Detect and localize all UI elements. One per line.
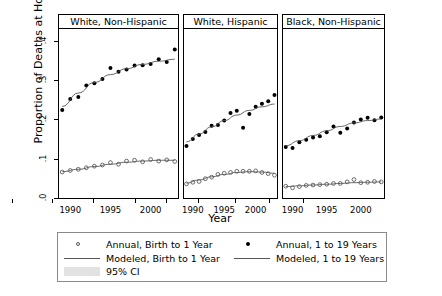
y-tick-mark xyxy=(54,198,58,199)
x-tick-mark xyxy=(166,199,167,203)
plot-area xyxy=(282,29,385,199)
data-point-filled xyxy=(318,134,322,138)
data-point-filled xyxy=(266,99,270,103)
x-tick-label: 2000 xyxy=(347,205,375,215)
data-point-filled xyxy=(366,116,370,120)
panel-strip-label: Black, Non-Hispanic xyxy=(282,14,385,29)
panel-0: White, Non-Hispanic xyxy=(58,14,179,199)
legend-filled-circle-icon xyxy=(246,242,250,246)
y-tick-label: .4 xyxy=(39,33,48,47)
data-point-filled xyxy=(359,117,363,121)
x-tick-label: 1990 xyxy=(279,205,307,215)
x-tick-mark xyxy=(269,199,270,203)
data-point-filled xyxy=(157,57,161,61)
x-tick-label: 2000 xyxy=(242,205,270,215)
data-point-open xyxy=(185,182,189,186)
data-point-filled xyxy=(229,111,233,115)
x-tick-mark xyxy=(198,199,199,203)
x-tick-mark xyxy=(93,199,94,203)
legend-open-circle-icon xyxy=(76,242,80,246)
x-tick-label: 1990 xyxy=(56,205,84,215)
data-point-filled xyxy=(291,146,295,150)
plot-area xyxy=(58,29,179,199)
x-tick-mark xyxy=(135,199,136,203)
x-tick-label: 1990 xyxy=(179,205,207,215)
panel-1: White, Hispanic xyxy=(183,14,278,199)
data-point-filled xyxy=(272,93,276,97)
x-tick-label: 1995 xyxy=(210,205,238,215)
data-point-filled xyxy=(338,131,342,135)
model-line xyxy=(62,59,175,106)
data-point-filled xyxy=(141,63,145,67)
y-tick-label: .0 xyxy=(39,191,48,205)
x-tick-label: 1995 xyxy=(313,205,341,215)
figure-root: Proportion of Deaths at Home Year White,… xyxy=(0,0,442,296)
legend-ci-band-icon xyxy=(64,267,100,276)
data-point-filled xyxy=(125,67,129,71)
data-point-open xyxy=(157,159,161,163)
data-point-filled xyxy=(60,108,64,112)
plot-area xyxy=(183,29,278,199)
data-point-filled xyxy=(185,144,189,148)
x-tick-label: 2000 xyxy=(137,205,165,215)
legend-line-icon xyxy=(64,258,100,259)
legend-label-ci: 95% CI xyxy=(106,266,140,277)
y-tick-mark xyxy=(54,159,58,160)
x-tick-mark xyxy=(303,199,304,203)
data-point-open xyxy=(273,173,277,177)
data-point-filled xyxy=(241,126,245,130)
data-point-filled xyxy=(260,102,264,106)
data-point-filled xyxy=(108,66,112,70)
y-tick-label: .1 xyxy=(39,151,48,165)
data-point-filled xyxy=(345,126,349,130)
data-point-filled xyxy=(173,47,177,51)
panel-strip-label: White, Non-Hispanic xyxy=(58,14,179,29)
data-point-open xyxy=(297,185,301,189)
legend-line-icon xyxy=(234,258,270,259)
y-tick-label: .3 xyxy=(39,73,48,87)
y-tick-mark xyxy=(54,119,58,120)
legend-label-annual-1to19: Annual, 1 to 19 Years xyxy=(276,239,377,250)
data-point-filled xyxy=(247,112,251,116)
legend-label-annual-birth: Annual, Birth to 1 Year xyxy=(106,239,213,250)
y-tick-mark xyxy=(54,80,58,81)
data-point-filled xyxy=(76,95,80,99)
x-tick-mark xyxy=(52,199,53,203)
x-tick-mark xyxy=(235,199,236,203)
chart-legend: Annual, Birth to 1 YearAnnual, 1 to 19 Y… xyxy=(57,232,387,282)
y-tick-label: .2 xyxy=(39,112,48,126)
data-point-open xyxy=(373,180,377,184)
x-tick-label: 1995 xyxy=(96,205,124,215)
x-tick-mark xyxy=(12,199,13,203)
data-point-filled xyxy=(235,109,239,113)
data-point-filled xyxy=(92,81,96,85)
legend-label-modeled-1to19: Modeled, 1 to 19 Years xyxy=(276,253,384,264)
y-tick-mark xyxy=(54,41,58,42)
data-point-open xyxy=(141,160,145,164)
panel-2: Black, Non-Hispanic xyxy=(282,14,385,199)
legend-label-modeled-birth: Modeled, Birth to 1 Year xyxy=(106,253,220,264)
data-point-open xyxy=(352,178,356,182)
panel-strip-label: White, Hispanic xyxy=(183,14,278,29)
